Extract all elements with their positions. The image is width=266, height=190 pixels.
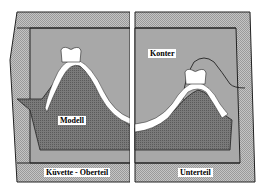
- flask-diagram: [0, 0, 266, 190]
- modell-label: Modell: [58, 116, 86, 125]
- tooth-right: [185, 69, 206, 84]
- tooth-left: [61, 47, 81, 62]
- panel-divider: [130, 0, 135, 190]
- oberteil-label: Küvette - Oberteil: [44, 168, 110, 177]
- konter-label: Konter: [148, 49, 176, 58]
- right-panel: [135, 12, 255, 182]
- left-panel: [10, 12, 130, 182]
- unterteil-label: Unterteil: [178, 168, 213, 177]
